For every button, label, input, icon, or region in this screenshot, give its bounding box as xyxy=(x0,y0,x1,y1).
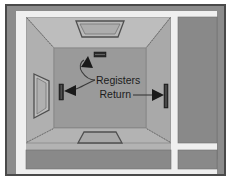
room-register-diagram: Registers Return xyxy=(0,0,231,180)
diagram-canvas: Registers Return xyxy=(0,0,231,180)
ceiling-register-inner xyxy=(80,24,120,34)
adjacent-room-bottom-left-visible xyxy=(26,150,171,169)
corridor-top xyxy=(16,11,217,17)
corridor-left xyxy=(16,11,26,169)
return-label: Return xyxy=(99,88,131,100)
adjacent-room-bottom-right-visible xyxy=(178,150,217,169)
floor-opening-visible xyxy=(78,132,122,143)
adjacent-room-right-visible xyxy=(178,17,217,143)
registers-label: Registers xyxy=(96,74,140,86)
left-wall-window-inner xyxy=(37,78,46,114)
